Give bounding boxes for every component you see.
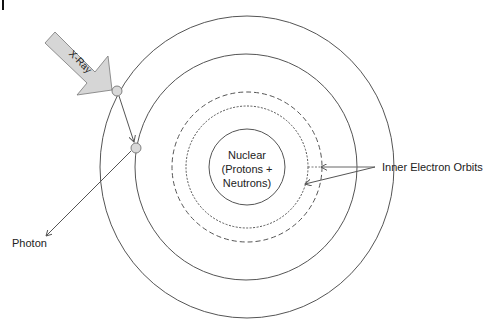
photon-arrow xyxy=(46,151,131,236)
photon-label: Photon xyxy=(12,237,47,249)
ejected-electron xyxy=(112,86,122,96)
nucleus-label-line2: (Protons + xyxy=(221,163,272,175)
transition-electron xyxy=(131,143,141,153)
inner-orbits-label: Inner Electron Orbits xyxy=(382,161,483,173)
electron-transition-arrow xyxy=(119,96,134,142)
nucleus-label-line1: Nuclear xyxy=(228,149,266,161)
orbit-pointer-2 xyxy=(305,167,375,184)
atom-xray-diagram: Nuclear (Protons + Neutrons) X-Ray Inner… xyxy=(0,0,490,331)
page-edge-mark xyxy=(2,0,4,10)
nucleus-label-line3: Neutrons) xyxy=(223,177,271,189)
